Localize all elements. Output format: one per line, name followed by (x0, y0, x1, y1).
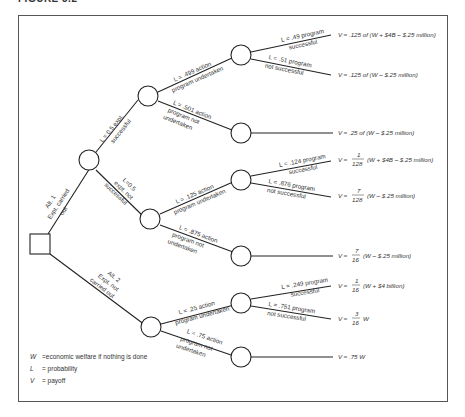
svg-text:V ≈: V ≈ (338, 252, 348, 259)
payoff-fraction: V ≈ 1 128 (W + $4B – $.25 million) (338, 151, 433, 167)
payoff-fraction: V ≈ 1 16 (W + $4 billion) (338, 277, 404, 293)
svg-text:1: 1 (357, 151, 360, 158)
legend-item: V= payoff (30, 375, 147, 387)
svg-text:3: 3 (355, 310, 359, 317)
chance-node (231, 347, 251, 367)
chance-node (231, 45, 251, 65)
svg-text:(W + $4B – $.25 million): (W + $4B – $.25 million) (367, 156, 433, 163)
chance-node (231, 123, 251, 143)
svg-text:V ≈: V ≈ (338, 192, 348, 199)
svg-text:(W – $.25 million): (W – $.25 million) (363, 252, 411, 259)
svg-text:128: 128 (352, 160, 363, 167)
chance-node (79, 150, 99, 170)
svg-text:V ≈: V ≈ (338, 315, 348, 322)
decision-node-square (30, 234, 50, 254)
svg-text:1: 1 (355, 277, 358, 284)
svg-text:16: 16 (352, 256, 359, 263)
svg-text:(W + $4 billion): (W + $4 billion) (363, 282, 404, 289)
svg-text:16: 16 (352, 286, 359, 293)
payoff-text: V ≈ .75 W (338, 353, 366, 360)
chance-node (231, 246, 251, 266)
svg-text:W: W (363, 315, 370, 322)
payoff-fraction: V ≈ 3 16 W (338, 310, 370, 326)
chance-node (140, 209, 160, 229)
svg-text:16: 16 (352, 319, 359, 326)
payoff-fraction: V ≈ 7 128 (W – $.25 million) (338, 187, 415, 203)
chance-node (141, 317, 161, 337)
svg-text:V ≈: V ≈ (338, 156, 348, 163)
payoff-fraction: V ≈ 7 16 (W – $.25 million) (338, 247, 411, 263)
chance-node (138, 86, 158, 106)
chance-node (231, 170, 251, 190)
svg-text:7: 7 (357, 187, 361, 194)
legend-item: L= probability (30, 363, 147, 375)
svg-text:V ≈: V ≈ (338, 282, 348, 289)
svg-text:(W – $.25 million): (W – $.25 million) (367, 192, 415, 199)
chance-node (231, 293, 251, 313)
legend: W=economic welfare if nothing is done L=… (30, 351, 147, 387)
payoff-text: V ≈ .125 of (W – $.25 million) (338, 71, 418, 78)
svg-text:128: 128 (352, 196, 363, 203)
legend-item: W=economic welfare if nothing is done (30, 351, 147, 363)
payoff-text: V ≈ .25 of (W – $.25 million) (338, 129, 414, 136)
svg-text:7: 7 (355, 247, 359, 254)
payoff-text: V ≈ .125 of (W + $4B – $.25 million) (338, 31, 436, 38)
